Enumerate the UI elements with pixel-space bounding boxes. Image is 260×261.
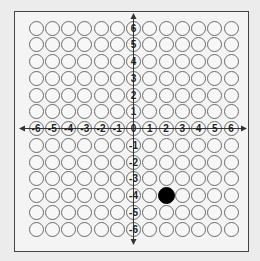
x-axis-label: -6 <box>29 121 44 136</box>
y-axis-label: -5 <box>126 205 141 220</box>
x-axis-label: -1 <box>110 121 125 136</box>
x-axis-label: 5 <box>207 121 222 136</box>
x-axis-label: 3 <box>175 121 190 136</box>
axis-labels: -6-5-4-3-2-10123456654321-1-2-3-4-5-6 <box>0 0 260 261</box>
x-axis-label: 2 <box>159 121 174 136</box>
y-axis-label: 1 <box>126 104 141 119</box>
y-axis-label: 2 <box>126 88 141 103</box>
x-axis-label: -2 <box>94 121 109 136</box>
x-axis-label: 0 <box>126 121 141 136</box>
y-axis-label: -2 <box>126 155 141 170</box>
x-axis-label: 1 <box>142 121 157 136</box>
y-axis-label: -3 <box>126 171 141 186</box>
y-axis-label: 6 <box>126 21 141 36</box>
y-axis-label: 3 <box>126 71 141 86</box>
y-axis-label: -4 <box>126 188 141 203</box>
x-axis-label: -3 <box>77 121 92 136</box>
x-axis-label: 4 <box>191 121 206 136</box>
x-axis-label: -5 <box>45 121 60 136</box>
y-axis-label: -6 <box>126 222 141 237</box>
y-axis-label: 5 <box>126 37 141 52</box>
y-axis-label: 4 <box>126 54 141 69</box>
x-axis-label: -4 <box>61 121 76 136</box>
x-axis-label: 6 <box>224 121 239 136</box>
y-axis-label: -1 <box>126 138 141 153</box>
